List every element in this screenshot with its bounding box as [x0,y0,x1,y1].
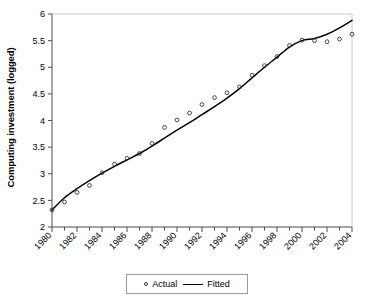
svg-text:1984: 1984 [82,230,103,251]
svg-text:1992: 1992 [182,230,203,251]
svg-text:2000: 2000 [282,230,303,251]
svg-text:3: 3 [40,169,45,179]
svg-text:1980: 1980 [32,230,53,251]
svg-text:2004: 2004 [332,230,353,251]
svg-text:1986: 1986 [107,230,128,251]
svg-text:1994: 1994 [207,230,228,251]
chart-legend: Actual Fitted [126,274,248,294]
svg-text:1996: 1996 [232,230,253,251]
line-marker-icon [183,284,203,285]
legend-item-fitted: Fitted [183,280,230,289]
legend-label-fitted: Fitted [207,280,230,289]
svg-text:1982: 1982 [57,230,78,251]
svg-text:5.5: 5.5 [32,36,45,46]
open-circle-marker-icon [144,282,148,286]
svg-text:5: 5 [40,62,45,72]
y-axis-ticks: 22.533.544.555.56 [32,9,52,232]
svg-text:1990: 1990 [157,230,178,251]
series-actual-points [50,32,354,212]
svg-text:1998: 1998 [257,230,278,251]
legend-item-actual: Actual [144,280,177,289]
legend-label-actual: Actual [152,280,177,289]
svg-text:1988: 1988 [132,230,153,251]
x-axis-ticks: 1980198219841986198819901992199419961998… [32,227,353,252]
series-fitted-line [52,20,352,210]
svg-text:2: 2 [40,222,45,232]
svg-text:2002: 2002 [307,230,328,251]
svg-text:6: 6 [40,9,45,19]
svg-text:4: 4 [40,116,45,126]
chart-plot-area: 22.533.544.555.56 1980198219841986198819… [0,0,369,303]
svg-text:3.5: 3.5 [32,142,45,152]
svg-text:2.5: 2.5 [32,196,45,206]
axis-frame [52,14,352,227]
svg-text:4.5: 4.5 [32,89,45,99]
chart-container: Computing investment (logged) 22.533.544… [0,0,369,303]
